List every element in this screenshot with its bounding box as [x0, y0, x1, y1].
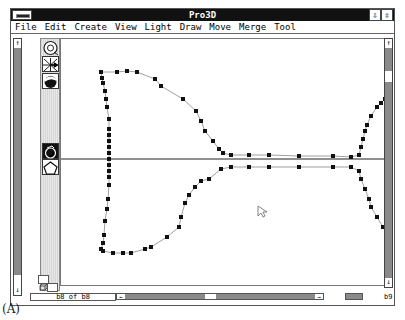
control-point[interactable]: [207, 177, 211, 181]
control-point[interactable]: [369, 205, 373, 209]
control-point[interactable]: [247, 165, 251, 169]
control-point[interactable]: [107, 163, 111, 167]
control-point[interactable]: [181, 97, 185, 101]
control-point[interactable]: [221, 151, 225, 155]
control-point[interactable]: [357, 169, 361, 173]
control-point[interactable]: [361, 137, 365, 141]
minimize-button[interactable]: ⇩: [369, 9, 381, 21]
control-point[interactable]: [101, 249, 105, 253]
scroll-left-arrow[interactable]: ←: [117, 294, 125, 299]
scroll-right-arrow[interactable]: →: [315, 294, 323, 299]
control-point[interactable]: [159, 84, 163, 88]
control-point[interactable]: [102, 233, 106, 237]
control-point[interactable]: [183, 201, 187, 205]
control-point[interactable]: [101, 81, 105, 85]
control-point[interactable]: [105, 105, 109, 109]
right-vertical-scrollbar[interactable]: ↑ ↓: [384, 38, 393, 288]
control-point[interactable]: [363, 187, 367, 191]
control-point[interactable]: [107, 169, 111, 173]
horizontal-scroll-thumb[interactable]: [205, 294, 216, 299]
menu-light[interactable]: Light: [141, 21, 176, 33]
control-point[interactable]: [297, 154, 301, 158]
menu-create[interactable]: Create: [70, 21, 111, 33]
control-point[interactable]: [349, 165, 353, 169]
control-point[interactable]: [331, 165, 335, 169]
solid-cube-button[interactable]: [47, 283, 58, 292]
menu-merge[interactable]: Merge: [235, 21, 270, 33]
control-point[interactable]: [107, 183, 111, 187]
control-point[interactable]: [375, 105, 379, 109]
control-point[interactable]: [187, 193, 191, 197]
control-point[interactable]: [349, 155, 353, 159]
control-point[interactable]: [121, 251, 125, 255]
control-point[interactable]: [129, 251, 133, 255]
horizontal-scrollbar[interactable]: ← →: [116, 293, 324, 300]
control-point[interactable]: [107, 151, 111, 155]
menu-tool[interactable]: Tool: [270, 21, 300, 33]
title-bar[interactable]: Pro3D ⇩ ⇳: [11, 9, 394, 21]
control-point[interactable]: [363, 129, 367, 133]
scroll-down-arrow-right[interactable]: ↓: [385, 278, 392, 287]
control-point[interactable]: [194, 109, 198, 113]
secondary-scroll-segment[interactable]: [345, 293, 363, 300]
control-point[interactable]: [105, 207, 109, 211]
control-point[interactable]: [107, 145, 111, 149]
control-point[interactable]: [103, 89, 107, 93]
control-point[interactable]: [153, 77, 157, 81]
menu-draw[interactable]: Draw: [176, 21, 206, 33]
scroll-up-arrow[interactable]: ↑: [14, 39, 21, 48]
scroll-thumb-right[interactable]: [385, 71, 392, 82]
control-point[interactable]: [267, 165, 271, 169]
control-point[interactable]: [217, 147, 221, 151]
control-point[interactable]: [104, 97, 108, 101]
control-point[interactable]: [135, 70, 139, 74]
control-point[interactable]: [219, 167, 223, 171]
scroll-down-arrow[interactable]: ↓: [14, 286, 21, 295]
menu-view[interactable]: View: [111, 21, 141, 33]
control-point[interactable]: [359, 145, 363, 149]
restore-button[interactable]: ⇳: [381, 9, 393, 21]
control-point[interactable]: [199, 179, 203, 183]
control-point[interactable]: [267, 153, 271, 157]
control-point[interactable]: [106, 197, 110, 201]
polygon-tool[interactable]: [42, 159, 59, 175]
control-point[interactable]: [165, 235, 169, 239]
control-point[interactable]: [149, 245, 153, 249]
rotate-tool[interactable]: [42, 40, 59, 56]
control-point[interactable]: [211, 139, 215, 143]
lathe-tool[interactable]: [42, 143, 59, 159]
control-point[interactable]: [107, 175, 111, 179]
control-point[interactable]: [115, 70, 119, 74]
control-point[interactable]: [193, 185, 197, 189]
control-point[interactable]: [247, 153, 251, 157]
control-point[interactable]: [375, 215, 379, 219]
scroll-up-arrow-right[interactable]: ↑: [385, 39, 392, 48]
control-point[interactable]: [357, 153, 361, 157]
control-point[interactable]: [107, 133, 111, 137]
control-point[interactable]: [379, 101, 383, 105]
move-axis-tool[interactable]: [42, 56, 59, 72]
left-vertical-scrollbar[interactable]: ↑ ↓: [13, 38, 22, 296]
control-point[interactable]: [203, 129, 207, 133]
control-point[interactable]: [107, 117, 111, 121]
control-point[interactable]: [229, 165, 233, 169]
control-point[interactable]: [297, 165, 301, 169]
control-point[interactable]: [99, 70, 103, 74]
control-point[interactable]: [229, 153, 233, 157]
control-point[interactable]: [359, 177, 363, 181]
shading-tool[interactable]: [42, 73, 59, 89]
control-point[interactable]: [101, 241, 105, 245]
drawing-canvas[interactable]: [60, 38, 391, 286]
control-point[interactable]: [107, 127, 111, 131]
control-point[interactable]: [331, 154, 335, 158]
control-point[interactable]: [367, 197, 371, 201]
control-point[interactable]: [199, 119, 203, 123]
control-point[interactable]: [365, 123, 369, 127]
control-point[interactable]: [369, 114, 373, 118]
control-point[interactable]: [125, 69, 129, 73]
control-point[interactable]: [111, 251, 115, 255]
control-point[interactable]: [177, 225, 181, 229]
control-point[interactable]: [107, 139, 111, 143]
control-point[interactable]: [107, 157, 111, 161]
control-point[interactable]: [103, 219, 107, 223]
